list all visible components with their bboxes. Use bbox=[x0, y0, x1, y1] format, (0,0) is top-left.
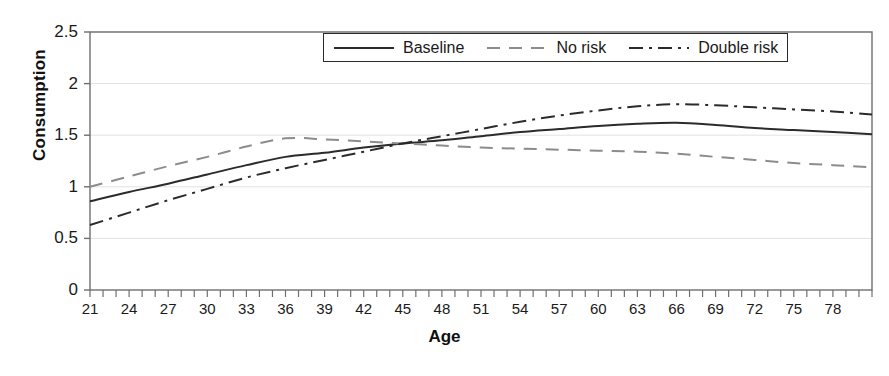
x-tick-label: 27 bbox=[160, 300, 177, 317]
legend-swatch-dash-dot-icon bbox=[628, 42, 690, 54]
legend-entry-no-risk[interactable]: No risk bbox=[486, 39, 606, 57]
x-tick-label: 63 bbox=[629, 300, 646, 317]
legend-swatch-solid-icon bbox=[333, 42, 395, 54]
legend-label: Double risk bbox=[698, 39, 778, 57]
x-tick-label: 30 bbox=[199, 300, 216, 317]
x-tick-label: 42 bbox=[355, 300, 372, 317]
x-tick-label: 39 bbox=[316, 300, 333, 317]
x-tick-label: 36 bbox=[277, 300, 294, 317]
x-tick-label: 66 bbox=[668, 300, 685, 317]
x-tick-label: 48 bbox=[434, 300, 451, 317]
legend-entry-double-risk[interactable]: Double risk bbox=[628, 39, 778, 57]
legend-entry-baseline[interactable]: Baseline bbox=[333, 39, 464, 57]
caption-remnant bbox=[0, 360, 889, 376]
x-tick-label: 51 bbox=[473, 300, 490, 317]
x-tick-label: 78 bbox=[825, 300, 842, 317]
legend-label: No risk bbox=[556, 39, 606, 57]
x-tick-label: 57 bbox=[551, 300, 568, 317]
x-tick-label: 69 bbox=[707, 300, 724, 317]
chart-legend: BaselineNo riskDouble risk bbox=[323, 33, 788, 62]
x-tick-label: 45 bbox=[394, 300, 411, 317]
x-tick-label: 33 bbox=[238, 300, 255, 317]
legend-label: Baseline bbox=[403, 39, 464, 57]
x-tick-label: 54 bbox=[512, 300, 529, 317]
x-tick-label: 75 bbox=[785, 300, 802, 317]
x-axis-title: Age bbox=[0, 327, 889, 347]
x-tick-label: 21 bbox=[82, 300, 99, 317]
figure-container: Consumption 00.511.522.5 212427303336394… bbox=[0, 0, 889, 376]
x-tick-label: 72 bbox=[746, 300, 763, 317]
legend-swatch-dashed-icon bbox=[486, 42, 548, 54]
x-tick-label: 60 bbox=[590, 300, 607, 317]
x-tick-label: 24 bbox=[121, 300, 138, 317]
